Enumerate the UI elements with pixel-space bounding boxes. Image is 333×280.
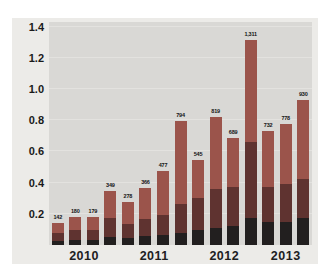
bar-value-label: 142 (53, 214, 62, 220)
x-axis-year-label: 2011 (140, 249, 169, 263)
bar-value-label: 366 (141, 179, 150, 185)
gridline (49, 26, 312, 27)
y-axis-tick-label: 0.4 (0, 176, 44, 190)
gridline (49, 57, 312, 58)
bar-segment-bottom (52, 241, 64, 245)
stacked-bar (297, 100, 309, 245)
bar-segment-top (104, 191, 116, 219)
bar-segment-bottom (104, 237, 116, 245)
stacked-bar (69, 217, 81, 245)
bar-value-label: 778 (281, 115, 290, 121)
stacked-bar (157, 171, 169, 245)
stacked-bar (104, 191, 116, 245)
y-axis-tick-label: 0.6 (0, 144, 44, 158)
gridline (49, 88, 312, 89)
stacked-bar (139, 188, 151, 245)
y-axis-tick-label: 1.4 (0, 20, 44, 34)
bar-segment-middle (262, 187, 274, 223)
bar-segment-middle (52, 233, 64, 242)
bar-segment-middle (210, 189, 222, 228)
bar-segment-bottom (122, 238, 134, 245)
y-axis-tick-label: 1.0 (0, 82, 44, 96)
x-axis-year-label: 2012 (209, 249, 239, 263)
bar-segment-top (175, 121, 187, 204)
bar-value-label: 930 (299, 91, 308, 97)
bar-segment-middle (280, 184, 292, 222)
bar-segment-top (297, 100, 309, 180)
bar-segment-top (210, 117, 222, 189)
bar-segment-middle (157, 215, 169, 235)
bar-segment-top (157, 171, 169, 215)
bar-value-label: 278 (124, 193, 133, 199)
bar-value-label: 545 (194, 151, 203, 157)
bar-value-label: 732 (264, 122, 273, 128)
bar-segment-bottom (262, 222, 274, 245)
bar-value-label: 349 (106, 182, 115, 188)
bar-segment-top (122, 202, 134, 224)
bar-value-label: 179 (89, 208, 98, 214)
bar-segment-top (52, 223, 64, 233)
stacked-bar (210, 117, 222, 245)
bar-segment-middle (192, 198, 204, 230)
bar-segment-bottom (245, 218, 257, 245)
chart-screenshot: 0.20.40.60.81.01.21.41421801793492783664… (0, 0, 333, 280)
stacked-bar (87, 217, 99, 245)
x-axis-year-label: 2013 (271, 249, 301, 263)
bar-segment-top (280, 124, 292, 185)
bar-segment-bottom (157, 235, 169, 245)
bar-segment-top (87, 217, 99, 230)
bar-segment-bottom (192, 230, 204, 245)
bar-segment-bottom (280, 222, 292, 245)
bar-segment-top (69, 217, 81, 230)
bar-segment-middle (227, 187, 239, 226)
bar-segment-bottom (210, 228, 222, 245)
stacked-bar (262, 131, 274, 245)
bar-value-label: 794 (176, 112, 185, 118)
bar-segment-middle (104, 218, 116, 237)
bar-segment-bottom (297, 218, 309, 245)
bar-segment-bottom (69, 240, 81, 245)
bar-segment-middle (69, 230, 81, 240)
bar-segment-bottom (175, 233, 187, 245)
bar-value-label: 819 (211, 108, 220, 114)
stacked-bar (192, 160, 204, 245)
y-axis-tick-label: 1.2 (0, 51, 44, 65)
stacked-bar (245, 40, 257, 245)
bar-segment-bottom (227, 226, 239, 245)
bar-segment-middle (297, 179, 309, 218)
bar-segment-top (192, 160, 204, 198)
stacked-bar (227, 138, 239, 245)
bar-segment-middle (87, 230, 99, 240)
bar-value-label: 477 (159, 162, 168, 168)
stacked-bar (175, 121, 187, 245)
bar-value-label: 689 (229, 129, 238, 135)
bar-segment-top (245, 40, 257, 142)
bar-segment-bottom (87, 240, 99, 245)
stacked-bar (122, 202, 134, 245)
bar-value-label: 180 (71, 208, 80, 214)
gridline (49, 119, 312, 120)
bar-segment-middle (122, 224, 134, 238)
bar-segment-top (227, 138, 239, 188)
bar-segment-middle (175, 204, 187, 232)
bar-value-label: 1,311 (244, 31, 256, 37)
bar-segment-middle (245, 142, 257, 218)
bar-segment-top (139, 188, 151, 219)
y-axis-tick-label: 0.8 (0, 113, 44, 127)
y-axis-tick-label: 0.2 (0, 207, 44, 221)
x-axis-year-label: 2010 (69, 249, 99, 263)
bar-segment-bottom (139, 236, 151, 245)
stacked-bar (280, 124, 292, 245)
stacked-bar (52, 223, 64, 245)
bar-segment-middle (139, 219, 151, 236)
bar-segment-top (262, 131, 274, 187)
